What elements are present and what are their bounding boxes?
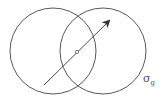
left-circle (10, 8, 96, 94)
right-circle (60, 8, 146, 94)
diagram-canvas (0, 0, 163, 97)
subscript-g: g (151, 79, 155, 87)
sigma-g-label: σg (143, 72, 155, 87)
center-point (75, 50, 78, 53)
sigma-symbol: σ (143, 72, 151, 85)
